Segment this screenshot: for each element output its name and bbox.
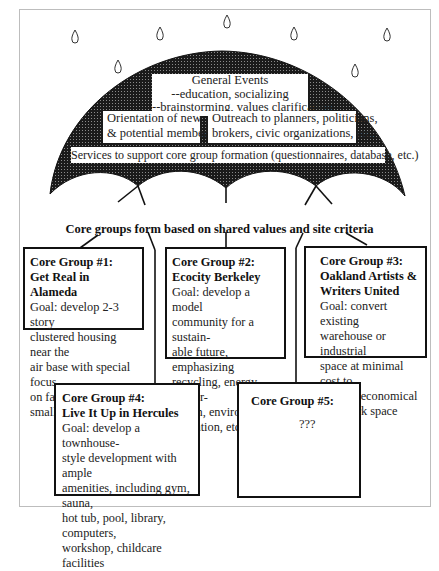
core-group-1-name: Get Real in Alameda bbox=[30, 270, 138, 300]
core-groups-heading: Core groups form based on shared values … bbox=[0, 222, 439, 237]
core-group-2-name: Ecocity Berkeley bbox=[172, 270, 280, 285]
outreach-line2: brokers, civic organizations, etc. bbox=[212, 126, 356, 141]
orientation-line1: Orientation of new bbox=[107, 111, 200, 126]
core-group-4-title: Core Group #4: bbox=[62, 391, 194, 406]
goal-line: Goal: develop a model bbox=[172, 285, 280, 315]
core-group-2-box: Core Group #2: Ecocity Berkeley Goal: de… bbox=[165, 247, 286, 359]
goal-line: Goal: develop 2-3 story bbox=[30, 300, 138, 330]
core-group-4-box: Core Group #4: Live It Up in Hercules Go… bbox=[54, 383, 200, 496]
services-label: Services to support core group formation… bbox=[71, 147, 385, 163]
core-group-1-title: Core Group #1: bbox=[30, 255, 138, 270]
core-group-5-title: Core Group #5: bbox=[251, 394, 355, 409]
outreach-label: Outreach to planners, politicians, broke… bbox=[208, 111, 356, 143]
goal-line: clustered housing near the bbox=[30, 330, 138, 360]
outreach-line1: Outreach to planners, politicians, bbox=[212, 111, 356, 126]
core-group-3-name-cont: Writers United bbox=[320, 284, 421, 299]
goal-line: hot tub, pool, library, computers, bbox=[62, 511, 194, 541]
general-events-title: General Events bbox=[152, 74, 308, 88]
goal-line: Goal: develop a townhouse- bbox=[62, 421, 194, 451]
orientation-label: Orientation of new & potential members bbox=[103, 111, 200, 143]
core-group-3-title: Core Group #3: bbox=[320, 254, 421, 269]
core-group-2-title: Core Group #2: bbox=[172, 255, 280, 270]
core-group-3-name: Oakland Artists & bbox=[320, 269, 421, 284]
core-group-1-box: Core Group #1: Get Real in Alameda Goal:… bbox=[23, 247, 144, 330]
goal-line: warehouse or industrial bbox=[320, 329, 421, 359]
core-group-5-placeholder: ??? bbox=[251, 417, 355, 432]
goal-line: amenities, including gym, sauna, bbox=[62, 481, 194, 511]
goal-line: able future, emphasizing bbox=[172, 345, 280, 375]
goal-line: Goal: convert existing bbox=[320, 299, 421, 329]
orientation-line2: & potential members bbox=[107, 126, 200, 141]
core-group-4-name: Live It Up in Hercules bbox=[62, 406, 194, 421]
goal-line: community for a sustain- bbox=[172, 315, 280, 345]
general-events-label: General Events --education, socializing … bbox=[152, 74, 308, 116]
core-group-3-box: Core Group #3: Oakland Artists & Writers… bbox=[304, 246, 427, 358]
core-group-5-box: Core Group #5: ??? bbox=[237, 382, 361, 498]
goal-line: workshop, childcare facilities bbox=[62, 541, 194, 571]
goal-line: style development with ample bbox=[62, 451, 194, 481]
general-events-line1: --education, socializing bbox=[152, 88, 308, 102]
